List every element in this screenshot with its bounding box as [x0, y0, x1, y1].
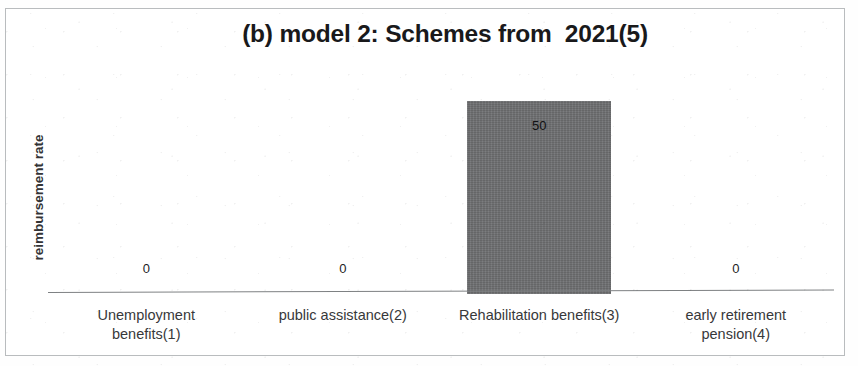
x-axis-category-line: Rehabilitation benefits(3)	[441, 306, 638, 325]
bar-band-2: 0	[245, 70, 442, 294]
x-axis-category-1: Unemploymentbenefits(1)	[48, 306, 245, 344]
x-axis-category-line: benefits(1)	[48, 325, 245, 344]
bar-band-1: 0	[48, 70, 245, 294]
x-axis-category-3: Rehabilitation benefits(3)	[441, 306, 638, 325]
x-axis-category-line: public assistance(2)	[245, 306, 442, 325]
y-axis-label: reimbursement rate	[31, 108, 46, 288]
bar-value-label-1: 0	[143, 261, 150, 276]
bar-value-label-3: 50	[532, 118, 546, 133]
bar-band-4: 0	[638, 70, 835, 294]
bar-value-label-4: 0	[732, 261, 739, 276]
x-axis-category-2: public assistance(2)	[245, 306, 442, 325]
bar-band-3: 50	[441, 70, 638, 294]
chart-figure: (b) model 2: Schemes from 2021(5) reimbu…	[0, 0, 858, 366]
x-axis-category-line: pension(4)	[638, 325, 835, 344]
x-axis-category-line: early retirement	[638, 306, 835, 325]
x-axis-category-4: early retirementpension(4)	[638, 306, 835, 344]
plot-area: 0 0 50 0	[48, 70, 834, 294]
bar-wrap-1: 0	[48, 70, 245, 294]
bar-wrap-4: 0	[638, 70, 835, 294]
bar-wrap-2: 0	[245, 70, 442, 294]
bar-value-label-2: 0	[339, 261, 346, 276]
x-axis-category-line: Unemployment	[48, 306, 245, 325]
chart-title: (b) model 2: Schemes from 2021(5)	[60, 20, 830, 48]
bar-wrap-3: 50	[441, 70, 638, 294]
